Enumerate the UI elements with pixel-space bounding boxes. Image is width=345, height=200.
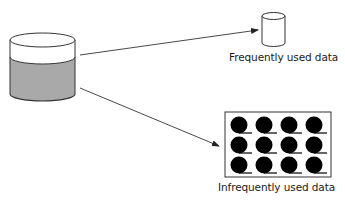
- frequent-data-label: Frequently used data: [229, 51, 338, 63]
- arrow-to-infrequent: [80, 88, 219, 146]
- primary-storage-cylinder-icon: [10, 33, 75, 101]
- tape-reel-icon: [281, 137, 298, 154]
- tape-reel-icon: [231, 137, 248, 154]
- tape-reel-icon: [306, 117, 323, 134]
- tape-reel-icon: [306, 157, 323, 174]
- diagram-canvas: [0, 0, 345, 200]
- tape-library-icon: [225, 112, 331, 177]
- tape-reel-icon: [256, 137, 273, 154]
- frequent-data-cylinder-icon: [262, 13, 285, 47]
- tape-reel-icon: [256, 157, 273, 174]
- infrequent-data-label: Infrequently used data: [218, 181, 335, 193]
- tape-reel-icon: [281, 157, 298, 174]
- tape-reel-icon: [281, 117, 298, 134]
- storage-tiering-diagram: Frequently used data Infrequently used d…: [0, 0, 345, 200]
- tape-reel-icon: [231, 117, 248, 134]
- tape-reel-icon: [231, 157, 248, 174]
- tape-reel-icon: [256, 117, 273, 134]
- tape-reel-icon: [306, 137, 323, 154]
